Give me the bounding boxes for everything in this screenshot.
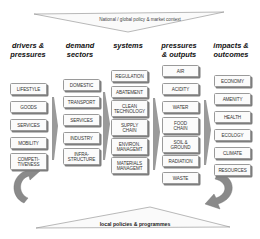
box-waste: WASTE [162,172,199,184]
flow-arrow-4 [204,100,211,165]
box-economy: ECONOMY [214,75,251,87]
box-competitiveness: COMPETI- TIVENESS [10,153,47,170]
heading-drivers-pressures: drivers &pressures [6,42,50,59]
box-transport: TRANSPORT [63,96,100,108]
heading-pressures-outputs: pressures& outputs [157,42,201,59]
box-abatement: ABATEMENT [111,86,148,98]
top-policy-banner [34,12,224,32]
box-amenity: AMENITY [214,93,251,105]
curved-arrow-left-icon [14,165,40,203]
box-health: HEALTH [214,111,251,123]
box-air: AIR [162,65,199,77]
box-food-chain: FOOD CHAIN [162,117,199,134]
box-clean-technology: CLEAN TECHNOLOGY [111,100,148,117]
box-services: SERVICES [10,119,47,131]
heading-demand-sectors: demandsectors [60,42,100,59]
bottom-banner-label: local policies & programmes [80,221,190,227]
top-banner-label: National / global policy & market contex… [70,17,210,22]
box-regulation: REGULATION [111,70,148,82]
box-domestic: DOMESTIC [63,79,100,91]
box-lifestyle: LIFESTYLE [10,83,47,95]
box-ecology: ECOLOGY [214,129,251,141]
box-resources: RESOURCES [214,164,251,176]
heading-systems: systems [106,42,150,51]
box-radiation: RADIATION [162,155,199,167]
box-services-sector: SERVICES [63,114,100,126]
box-climate: CLIMATE [214,147,251,159]
box-industry: INDUSTRY [63,132,100,144]
box-materials-managemt: MATERIALS MANAGEMT [111,157,148,174]
box-supply-chain: SUPPLY CHAIN [111,119,148,136]
box-mobility: MOBILITY [10,137,47,149]
flow-arrow-2 [103,92,110,160]
flow-arrow-3 [153,98,160,170]
box-environ-managemt: ENVIRON. MANAGEMT [111,138,148,155]
heading-impacts-outcomes: impacts &outcomes [207,42,255,59]
flow-arrow-1 [52,97,58,160]
box-infrastructure: INFRA- STRUCTURE [63,148,100,165]
box-goods: GOODS [10,101,47,113]
box-acidity: ACIDITY [162,83,199,95]
box-soil-ground: SOIL & GROUND [162,136,199,153]
curved-arrow-right-icon [205,173,232,209]
box-water: WATER [162,101,199,113]
